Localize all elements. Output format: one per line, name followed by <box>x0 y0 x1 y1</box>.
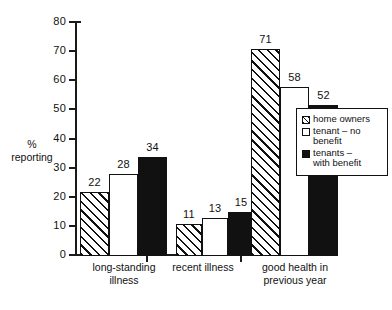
bar-value-good-health-tenant-no-benefit: 58 <box>280 72 309 83</box>
x-category-label-long-standing-illness-line2: illness <box>80 274 168 287</box>
bar-value-recent-illness-tenants-with-benefit: 15 <box>228 197 254 208</box>
legend-label-tenant-no-benefit: tenant – no benefit <box>313 126 361 147</box>
x-category-label-good-health: good health in previous year <box>243 261 347 287</box>
x-category-label-recent-illness: recent illness <box>155 261 251 274</box>
legend-swatch-hatch-icon <box>302 116 310 124</box>
x-category-label-recent-illness-line1: recent illness <box>155 261 251 274</box>
legend-item-home-owners: home owners <box>302 114 383 125</box>
bar-long-standing-illness-tenants-with-benefit <box>138 157 167 256</box>
legend-item-tenants-with-benefit: tenants – with benefit <box>302 148 383 169</box>
bar-value-long-standing-home-owners: 22 <box>80 177 109 188</box>
bar-value-recent-illness-home-owners: 11 <box>176 209 202 220</box>
bar-recent-illness-home-owners <box>176 224 202 256</box>
legend-swatch-white-icon <box>302 128 310 136</box>
legend-label-tenants-with-benefit-line2: with benefit <box>313 158 361 169</box>
x-category-label-good-health-line1: good health in <box>243 261 347 274</box>
bar-value-long-standing-tenants-with-benefit: 34 <box>138 142 167 153</box>
legend-label-home-owners-line1: home owners <box>313 114 370 125</box>
bar-value-good-health-home-owners: 71 <box>251 34 280 45</box>
bar-recent-illness-tenant-no-benefit <box>202 218 228 256</box>
x-category-label-good-health-line2: previous year <box>243 274 347 287</box>
legend-label-home-owners: home owners <box>313 114 370 125</box>
bar-long-standing-illness-home-owners <box>80 192 109 256</box>
legend: home owners tenant – no benefit tenants … <box>296 108 388 176</box>
legend-label-tenants-with-benefit: tenants – with benefit <box>313 148 361 169</box>
bar-chart: 80 70 60 50 40 30 20 10 0 % reporting 22… <box>0 0 392 310</box>
bar-good-health-home-owners <box>251 49 280 256</box>
bar-value-recent-illness-tenant-no-benefit: 13 <box>202 203 228 214</box>
legend-item-tenant-no-benefit: tenant – no benefit <box>302 126 383 147</box>
bar-long-standing-illness-tenant-no-benefit <box>109 174 138 256</box>
bar-value-good-health-tenants-with-benefit: 52 <box>309 90 338 101</box>
bar-value-long-standing-tenant-no-benefit: 28 <box>109 159 138 170</box>
legend-label-tenant-no-benefit-line2: benefit <box>313 136 361 147</box>
legend-swatch-black-icon <box>302 150 310 158</box>
